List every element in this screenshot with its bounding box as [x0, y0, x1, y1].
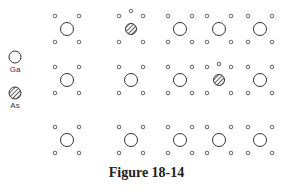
small-atom-icon [270, 91, 274, 95]
small-atom-icon [205, 40, 209, 44]
small-atom-icon [270, 125, 274, 129]
small-atom-icon [141, 40, 145, 44]
small-atom-icon [77, 151, 81, 155]
legend-label-as: As [10, 101, 19, 110]
small-atom-icon [141, 65, 145, 69]
small-atom-icon [246, 40, 250, 44]
small-atom-icon [229, 125, 233, 129]
small-atom-icon [117, 14, 121, 18]
small-atom-icon [77, 65, 81, 69]
small-atom-icon [53, 151, 57, 155]
small-atom-icon [117, 91, 121, 95]
small-atom-icon [205, 125, 209, 129]
as-atom-icon [9, 87, 21, 99]
small-atom-icon [190, 14, 194, 18]
ga-atom-icon [254, 74, 267, 87]
small-atom-icon [53, 125, 57, 129]
ga-atom-icon [9, 51, 21, 63]
small-atom-icon [217, 62, 221, 66]
ga-atom-icon [61, 23, 74, 36]
ga-atom-icon [174, 134, 187, 147]
small-atom-icon [190, 151, 194, 155]
small-atom-icon [270, 151, 274, 155]
small-atom-icon [166, 65, 170, 69]
small-atom-icon [190, 91, 194, 95]
small-atom-icon [205, 65, 209, 69]
small-atom-icon [117, 65, 121, 69]
small-atom-icon [190, 65, 194, 69]
ga-atom-icon [213, 134, 226, 147]
small-atom-icon [141, 151, 145, 155]
ga-atom-icon [254, 23, 267, 36]
ga-atom-icon [61, 74, 74, 87]
small-atom-icon [53, 40, 57, 44]
small-atom-icon [77, 14, 81, 18]
small-atom-icon [229, 151, 233, 155]
small-atom-icon [190, 125, 194, 129]
small-atom-icon [77, 91, 81, 95]
small-atom-icon [166, 14, 170, 18]
small-atom-icon [77, 40, 81, 44]
as-atom-icon [126, 24, 137, 35]
small-atom-icon [246, 125, 250, 129]
small-atom-icon [53, 65, 57, 69]
small-atom-icon [53, 14, 57, 18]
small-atom-icon [229, 91, 233, 95]
small-atom-icon [270, 65, 274, 69]
legend-item-as: As [9, 87, 21, 110]
small-atom-icon [166, 40, 170, 44]
small-atom-icon [270, 14, 274, 18]
small-atom-icon [246, 91, 250, 95]
small-atom-icon [117, 125, 121, 129]
ga-atom-icon [213, 23, 226, 36]
figure-caption: Figure 18-14 [0, 165, 293, 181]
small-atom-icon [141, 14, 145, 18]
legend: Ga As [9, 51, 21, 110]
lattice [53, 9, 274, 155]
small-atom-icon [246, 14, 250, 18]
ga-atom-icon [254, 134, 267, 147]
ga-atom-icon [61, 134, 74, 147]
small-atom-icon [166, 91, 170, 95]
ga-atom-icon [125, 134, 138, 147]
ga-atom-icon [174, 74, 187, 87]
small-atom-icon [205, 151, 209, 155]
small-atom-icon [53, 91, 57, 95]
small-atom-icon [117, 151, 121, 155]
small-atom-icon [141, 125, 145, 129]
as-atom-icon [214, 75, 225, 86]
ga-atom-icon [174, 23, 187, 36]
small-atom-icon [129, 9, 133, 13]
legend-label-ga: Ga [10, 65, 21, 74]
small-atom-icon [229, 65, 233, 69]
small-atom-icon [166, 151, 170, 155]
small-atom-icon [229, 40, 233, 44]
small-atom-icon [229, 14, 233, 18]
small-atom-icon [246, 151, 250, 155]
small-atom-icon [190, 40, 194, 44]
small-atom-icon [166, 125, 170, 129]
legend-item-ga: Ga [9, 51, 21, 74]
small-atom-icon [141, 91, 145, 95]
small-atom-icon [246, 65, 250, 69]
ga-atom-icon [125, 74, 138, 87]
small-atom-icon [77, 125, 81, 129]
small-atom-icon [205, 91, 209, 95]
small-atom-icon [117, 40, 121, 44]
small-atom-icon [270, 40, 274, 44]
small-atom-icon [205, 14, 209, 18]
